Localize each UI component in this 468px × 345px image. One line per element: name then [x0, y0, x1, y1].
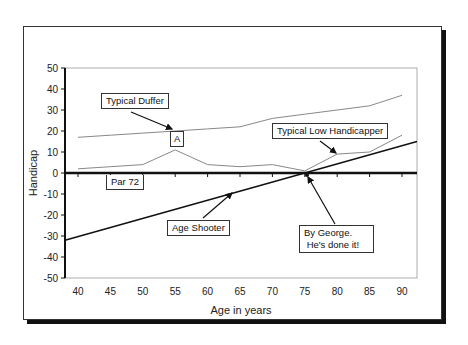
callout-par-72: Par 72: [106, 175, 144, 190]
y-axis: 50403020100-10-20-30-40-50: [44, 63, 65, 284]
svg-text:50: 50: [137, 286, 149, 297]
callout-a-marker: A: [170, 131, 184, 147]
svg-text:50: 50: [47, 63, 59, 74]
x-axis-title: Age in years: [210, 304, 272, 316]
svg-text:85: 85: [364, 286, 376, 297]
svg-text:40: 40: [47, 84, 59, 95]
svg-text:75: 75: [299, 286, 311, 297]
svg-text:10: 10: [47, 147, 59, 158]
line-chart: 50403020100-10-20-30-40-50 4045505560657…: [0, 0, 468, 345]
svg-text:65: 65: [234, 286, 246, 297]
svg-text:20: 20: [47, 126, 59, 137]
svg-text:-50: -50: [44, 273, 59, 284]
svg-text:90: 90: [396, 286, 408, 297]
svg-text:-40: -40: [44, 252, 59, 263]
svg-text:70: 70: [267, 286, 279, 297]
svg-text:40: 40: [72, 286, 84, 297]
series-typical-low-handicapper: [78, 135, 402, 171]
svg-text:80: 80: [332, 286, 344, 297]
svg-text:45: 45: [105, 286, 117, 297]
callout-typical-low-handicapper: Typical Low Handicapper: [272, 123, 388, 139]
callout-typical-duffer: Typical Duffer: [101, 93, 169, 109]
svg-text:0: 0: [52, 168, 58, 179]
svg-text:55: 55: [170, 286, 182, 297]
svg-text:-20: -20: [44, 210, 59, 221]
series-lines: [65, 95, 417, 240]
svg-text:60: 60: [202, 286, 214, 297]
svg-text:-10: -10: [44, 189, 59, 200]
callout-age-shooter: Age Shooter: [167, 220, 230, 236]
svg-text:30: 30: [47, 105, 59, 116]
callout-by-george: By George. He's done it!: [299, 225, 374, 253]
svg-text:-30: -30: [44, 231, 59, 242]
y-axis-title: Handicap: [27, 150, 39, 196]
